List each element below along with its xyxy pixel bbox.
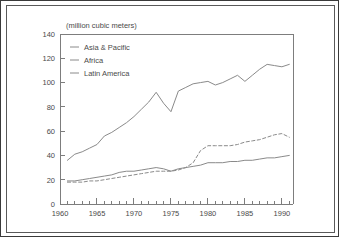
y-tick-label: 40 (47, 151, 55, 160)
units-label: (million cubic meters) (66, 21, 137, 30)
x-tick-label: 1975 (163, 209, 180, 218)
x-tick-label: 1990 (274, 209, 291, 218)
series-line-africa (67, 155, 289, 181)
legend-label-2: Latin America (84, 69, 130, 78)
figure-inner-frame: 0204060801001201401960196519701975198019… (6, 5, 335, 233)
y-tick-label: 0 (51, 200, 55, 209)
x-tick-label: 1970 (126, 209, 143, 218)
figure-outer-frame: 0204060801001201401960196519701975198019… (0, 0, 339, 237)
y-tick-label: 60 (47, 127, 55, 136)
legend-label-1: Africa (84, 56, 104, 65)
x-tick-label: 1960 (52, 209, 69, 218)
y-tick-label: 140 (42, 30, 55, 39)
x-tick-label: 1985 (237, 209, 254, 218)
x-tick-label: 1965 (89, 209, 106, 218)
line-chart: 0204060801001201401960196519701975198019… (7, 6, 334, 232)
y-tick-label: 20 (47, 176, 55, 185)
y-tick-label: 120 (42, 54, 55, 63)
y-tick-label: 80 (47, 103, 55, 112)
legend-label-0: Asia & Pacific (84, 43, 130, 52)
x-tick-label: 1980 (200, 209, 217, 218)
y-tick-label: 100 (42, 78, 55, 87)
series-line-asia-pacific (67, 64, 289, 160)
